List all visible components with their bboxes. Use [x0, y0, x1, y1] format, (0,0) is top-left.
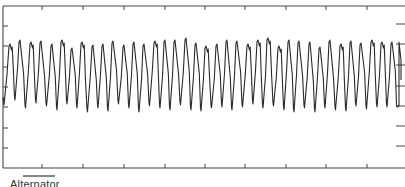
x-ticks — [42, 6, 367, 168]
scale-bar-label: Alternator — [10, 178, 60, 187]
waveform-chart — [0, 0, 405, 187]
waveform-trace — [3, 38, 401, 112]
